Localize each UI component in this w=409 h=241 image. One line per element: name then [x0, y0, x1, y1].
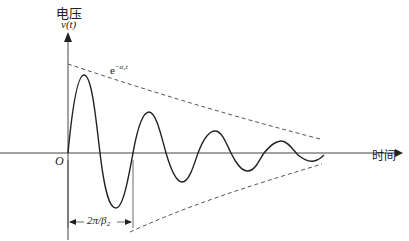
- time-axis-arrow-icon: [395, 149, 403, 157]
- voltage-axis-arrow-icon: [64, 32, 72, 42]
- origin-label: O: [55, 154, 64, 169]
- envelope-exponent: −α₂t: [115, 63, 128, 71]
- upper-envelope: [68, 64, 320, 139]
- y-axis-label-var: v(t): [61, 18, 76, 30]
- arrow-right-icon: [125, 219, 132, 225]
- damped-oscillation-diagram: 电压 v(t) 时间 O e−α₂t 2π/β₂: [0, 0, 409, 241]
- lower-envelope: [130, 164, 322, 232]
- diagram-svg: [0, 0, 409, 241]
- period-label: 2π/β₂: [87, 214, 110, 226]
- damped-wave-curve: [68, 75, 324, 208]
- arrow-left-icon: [69, 219, 76, 225]
- envelope-label: e−α₂t: [110, 63, 128, 76]
- x-axis-label: 时间: [372, 146, 396, 164]
